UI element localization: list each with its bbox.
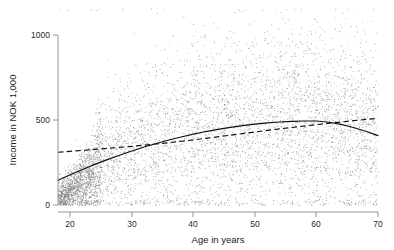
y-axis-title: Income in NOK 1,000 (7, 75, 18, 166)
linear-fit-line (58, 118, 378, 152)
x-tick-label-50: 50 (250, 219, 260, 229)
scatter-points-layer (58, 9, 379, 206)
y-tick-label-1000: 1000 (31, 30, 50, 40)
x-tick-label-70: 70 (373, 219, 383, 229)
x-tick-label-20: 20 (65, 219, 75, 229)
y-tick-label-0: 0 (45, 200, 50, 210)
scatter-plot-figure: 1000 500 0 Income in NOK 1,000 20 30 40 … (0, 0, 394, 250)
x-axis-title: Age in years (192, 234, 245, 245)
chart-canvas: 1000 500 0 Income in NOK 1,000 20 30 40 … (0, 0, 394, 250)
quadratic-fit-line (58, 121, 378, 180)
x-tick-label-60: 60 (311, 219, 321, 229)
x-tick-label-30: 30 (127, 219, 137, 229)
x-tick-label-40: 40 (188, 219, 198, 229)
y-tick-label-500: 500 (36, 115, 50, 125)
